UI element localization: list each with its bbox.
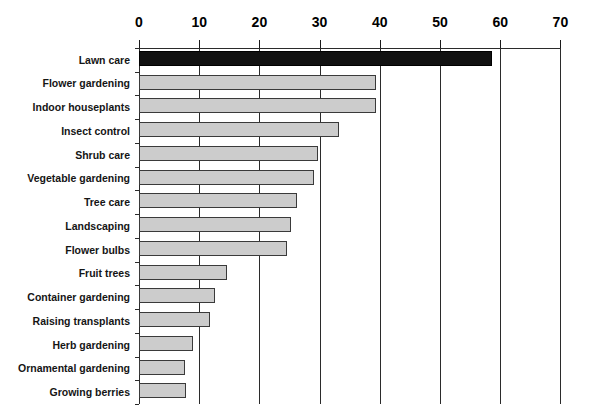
x-tick-label: 20	[239, 14, 279, 30]
bar-row	[139, 262, 560, 285]
bar	[139, 170, 314, 185]
bar	[139, 312, 210, 327]
x-tick-mark	[139, 40, 140, 48]
x-tick-label: 0	[119, 14, 159, 30]
bar-row	[139, 190, 560, 213]
category-label: Insect control	[0, 119, 133, 142]
bar	[139, 146, 318, 161]
bar-chart: 010203040506070 Lawn careFlower gardenin…	[0, 0, 595, 414]
bar-row	[139, 357, 560, 380]
category-label: Fruit trees	[0, 262, 133, 285]
bar-row	[139, 333, 560, 356]
x-tick-label: 10	[179, 14, 219, 30]
category-label: Flower bulbs	[0, 238, 133, 261]
bar	[139, 383, 186, 398]
bar-row	[139, 72, 560, 95]
bar	[139, 51, 492, 66]
category-label: Landscaping	[0, 214, 133, 237]
bar-row	[139, 238, 560, 261]
x-tick-mark	[380, 40, 381, 48]
category-label: Herb gardening	[0, 333, 133, 356]
bar-row	[139, 95, 560, 118]
gridline	[560, 48, 561, 404]
y-tick-mark	[135, 404, 139, 405]
x-tick-mark	[500, 40, 501, 48]
bar	[139, 98, 376, 113]
bar	[139, 336, 193, 351]
category-label: Flower gardening	[0, 72, 133, 95]
category-label: Tree care	[0, 190, 133, 213]
category-label: Raising transplants	[0, 309, 133, 332]
bar-row	[139, 119, 560, 142]
x-tick-label: 30	[300, 14, 340, 30]
category-label: Growing berries	[0, 380, 133, 403]
category-label: Vegetable gardening	[0, 167, 133, 190]
bar-row	[139, 380, 560, 403]
category-label: Lawn care	[0, 48, 133, 71]
bar-row	[139, 285, 560, 308]
x-tick-label: 60	[480, 14, 520, 30]
bar-row	[139, 48, 560, 71]
bar	[139, 217, 291, 232]
x-tick-mark	[199, 40, 200, 48]
x-tick-mark	[440, 40, 441, 48]
category-label: Container gardening	[0, 285, 133, 308]
x-tick-label: 40	[360, 14, 400, 30]
category-label: Indoor houseplants	[0, 95, 133, 118]
x-tick-mark	[560, 40, 561, 48]
bar-series	[139, 48, 560, 404]
bar-row	[139, 167, 560, 190]
bar	[139, 193, 297, 208]
x-tick-mark	[259, 40, 260, 48]
bar	[139, 360, 185, 375]
category-label: Shrub care	[0, 143, 133, 166]
bar	[139, 288, 215, 303]
category-labels: Lawn careFlower gardeningIndoor housepla…	[0, 48, 133, 404]
x-tick-mark	[320, 40, 321, 48]
category-label: Ornamental gardening	[0, 357, 133, 380]
bar	[139, 122, 339, 137]
x-tick-label: 50	[420, 14, 460, 30]
bar	[139, 75, 376, 90]
bar	[139, 241, 287, 256]
bar-row	[139, 214, 560, 237]
bar	[139, 265, 227, 280]
bar-row	[139, 143, 560, 166]
bar-row	[139, 309, 560, 332]
x-tick-label: 70	[540, 14, 580, 30]
